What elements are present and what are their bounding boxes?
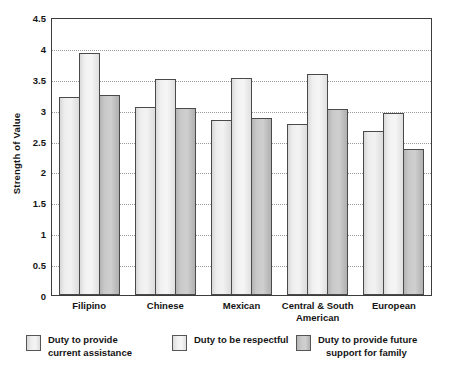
x-label-3: Mexican [203,300,279,330]
bar-1-2[interactable] [79,53,100,295]
y-axis-tick-2: 2 [12,167,46,178]
y-axis-tick-labels: 4.543.532.521.510.50 [12,0,46,376]
series-3-swatch [296,335,311,351]
bar-group-central-south-american [287,19,348,295]
x-label-line1: Chinese [127,300,203,312]
bar-group-mexican [211,19,272,295]
bar-1-1[interactable] [59,97,80,295]
legend-item-1[interactable]: Duty to providecurrent assistance [26,334,172,359]
y-axis-tick-4: 4 [12,43,46,54]
legend-label-line1: Duty to provide [48,334,132,347]
bar-group-chinese [135,19,196,295]
x-label-1: Filipino [51,300,127,330]
bar-chart-figure: Strength of Value 4.543.532.521.510.50 F… [0,0,449,376]
chart-legend: Duty to providecurrent assistanceDuty to… [26,334,430,372]
bar-5-1[interactable] [363,131,384,295]
bar-4-2[interactable] [307,74,328,295]
legend-item-2[interactable]: Duty to be respectful [172,334,296,351]
series-2-swatch [172,335,187,351]
x-label-line1: Central & South [280,300,356,312]
bar-3-2[interactable] [231,78,252,295]
legend-label-2: Duty to be respectful [194,334,289,347]
x-label-line1: Filipino [51,300,127,312]
y-axis-tick-0: 0 [12,291,46,302]
bar-5-2[interactable] [383,113,404,295]
plot-area [51,18,432,296]
y-axis-tick-3-5: 3.5 [12,74,46,85]
legend-label-line1: Duty to provide future [318,334,417,347]
legend-label-3: Duty to provide futuresupport for family [318,334,417,359]
bar-5-3[interactable] [403,149,424,295]
legend-label-1: Duty to providecurrent assistance [48,334,132,359]
bar-4-1[interactable] [287,124,308,295]
y-axis-tick-1-5: 1.5 [12,198,46,209]
x-label-5: European [356,300,432,330]
bar-3-3[interactable] [251,118,272,295]
legend-label-line2: current assistance [48,347,132,360]
bar-2-3[interactable] [175,108,196,295]
bar-4-3[interactable] [327,109,348,295]
x-label-line2: American [280,312,356,324]
x-label-line1: European [356,300,432,312]
bar-1-3[interactable] [99,95,120,295]
bar-group-european [363,19,424,295]
series-1-swatch [26,335,41,351]
y-axis-tick-2-5: 2.5 [12,136,46,147]
bar-2-1[interactable] [135,107,156,295]
bar-3-1[interactable] [211,120,232,295]
bar-2-2[interactable] [155,79,176,295]
x-label-4: Central & SouthAmerican [280,300,356,330]
bar-groups [52,19,431,295]
y-axis-tick-4-5: 4.5 [12,13,46,24]
y-axis-tick-1: 1 [12,229,46,240]
legend-label-line1: Duty to be respectful [194,334,289,347]
x-axis-category-labels: FilipinoChineseMexicanCentral & SouthAme… [51,300,432,330]
y-axis-tick-3: 3 [12,105,46,116]
legend-item-3[interactable]: Duty to provide futuresupport for family [296,334,430,359]
legend-label-line2: support for family [318,347,417,360]
bar-group-filipino [59,19,120,295]
x-label-2: Chinese [127,300,203,330]
x-label-line1: Mexican [203,300,279,312]
y-axis-tick-0-5: 0.5 [12,260,46,271]
